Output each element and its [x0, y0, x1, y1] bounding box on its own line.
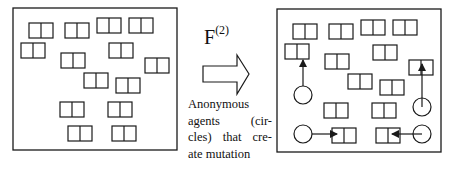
- double-cell: [409, 60, 433, 75]
- double-cell: [329, 24, 353, 39]
- double-cell: [108, 102, 132, 117]
- agent-circle-icon: [294, 86, 312, 104]
- agent: [294, 125, 337, 143]
- agent: [294, 60, 312, 104]
- double-cell: [84, 73, 108, 88]
- caption-line: agents (cir-: [188, 113, 272, 130]
- double-cell: [285, 44, 309, 59]
- double-cell: [348, 74, 372, 89]
- double-cell: [109, 43, 133, 58]
- caption-line: Anonymous: [188, 96, 272, 113]
- double-cell: [129, 18, 153, 33]
- double-cell: [376, 128, 400, 143]
- operator-symbol: F: [204, 26, 215, 48]
- left-panel-cells: [21, 18, 169, 141]
- double-cell: [29, 23, 53, 38]
- double-cell: [361, 20, 385, 35]
- double-cell: [393, 20, 417, 35]
- double-cell: [116, 78, 140, 93]
- double-cell: [332, 128, 356, 143]
- double-cell: [97, 18, 121, 33]
- caption: Anonymous agents (cir- cles) that cre- a…: [188, 96, 272, 162]
- double-cell: [324, 103, 348, 118]
- caption-line: ate mutation: [188, 146, 272, 163]
- double-cell: [145, 58, 169, 73]
- block-arrow-right-icon: [203, 55, 249, 94]
- double-cell: [112, 126, 136, 141]
- agent-circle-icon: [294, 125, 312, 143]
- caption-line: cles) that cre-: [188, 129, 272, 146]
- operator-superscript: (2): [215, 23, 229, 37]
- double-cell: [293, 24, 317, 39]
- double-cell: [65, 23, 89, 38]
- double-cell: [61, 53, 85, 68]
- double-cell: [60, 102, 84, 117]
- double-cell: [325, 54, 349, 69]
- double-cell: [380, 80, 404, 95]
- double-cell: [373, 45, 397, 60]
- operator-label: F(2): [204, 26, 229, 47]
- right-panel-cells: [285, 20, 433, 143]
- double-cell: [372, 103, 396, 118]
- double-cell: [21, 43, 45, 58]
- double-cell: [68, 126, 92, 141]
